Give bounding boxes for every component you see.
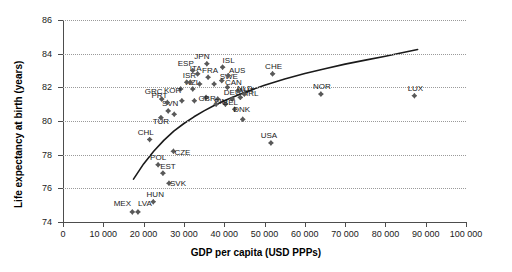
x-tick-label-40000: 40 000 — [210, 230, 238, 239]
data-point-label-grc: GRC — [145, 88, 163, 96]
x-tick-10000 — [103, 223, 104, 227]
x-tick-100000 — [466, 223, 467, 227]
data-point-label-hun: HUN — [147, 191, 164, 199]
data-point-label-nor: NOR — [313, 83, 331, 91]
y-tick-80 — [58, 121, 63, 122]
data-point-label-svk: SVK — [170, 180, 186, 188]
x-tick-label-0: 0 — [60, 230, 65, 239]
x-tick-label-60000: 60 000 — [291, 230, 319, 239]
data-point-label-kor: KOR — [164, 87, 181, 95]
x-tick-90000 — [426, 223, 427, 227]
y-tick-label-80: 80 — [0, 117, 52, 126]
y-tick-82 — [58, 87, 63, 88]
data-point-label-tur: TUR — [153, 118, 169, 126]
x-tick-label-30000: 30 000 — [170, 230, 198, 239]
y-tick-84 — [58, 54, 63, 55]
x-tick-label-90000: 90 000 — [412, 230, 440, 239]
y-tick-label-86: 86 — [0, 16, 52, 25]
data-point-label-est: EST — [160, 163, 176, 171]
x-tick-label-70000: 70 000 — [331, 230, 359, 239]
data-point-label-pol: POL — [150, 154, 166, 162]
data-point-label-mex: MEX — [114, 200, 131, 208]
x-axis-title: GDP per capita (USD PPPs) — [0, 247, 512, 258]
data-point-label-gbr: GBR — [198, 95, 215, 103]
life-expectancy-gdp-scatter-chart: MEXLVAHUNSVKESTPOLCZECHLTURSVNPRTGRCKORN… — [0, 0, 512, 272]
data-point-label-chl: CHL — [138, 129, 154, 137]
y-tick-label-82: 82 — [0, 83, 52, 92]
x-tick-60000 — [305, 223, 306, 227]
x-tick-30000 — [184, 223, 185, 227]
y-tick-label-78: 78 — [0, 151, 52, 160]
data-point-label-isr: ISR — [183, 72, 196, 80]
x-tick-0 — [63, 223, 64, 227]
data-point-label-usa: USA — [261, 132, 277, 140]
x-tick-label-10000: 10 000 — [90, 230, 118, 239]
x-tick-20000 — [144, 223, 145, 227]
gridline-y-86 — [63, 20, 466, 21]
data-point-label-isl: ISL — [223, 57, 235, 65]
data-point-label-cze: CZE — [174, 149, 190, 157]
x-tick-50000 — [265, 223, 266, 227]
x-tick-40000 — [224, 223, 225, 227]
data-point-label-fra: FRA — [202, 67, 218, 75]
x-tick-label-50000: 50 000 — [251, 230, 279, 239]
data-point-label-aus: AUS — [229, 67, 245, 75]
data-point-label-lux: LUX — [408, 85, 424, 93]
y-tick-86 — [58, 20, 63, 21]
data-point-label-jpn: JPN — [194, 53, 209, 61]
data-point-label-che: CHE — [265, 63, 282, 71]
x-tick-70000 — [345, 223, 346, 227]
x-tick-label-20000: 20 000 — [130, 230, 158, 239]
data-point-label-dnk: DNK — [233, 106, 250, 114]
data-point-label-svn: SVN — [162, 100, 178, 108]
x-tick-label-100000: 100 000 — [450, 230, 483, 239]
gridline-y-84 — [63, 54, 466, 55]
y-tick-76 — [58, 188, 63, 189]
gridline-y-78 — [63, 155, 466, 156]
data-point-label-irl: IRL — [246, 90, 258, 98]
x-tick-label-80000: 80 000 — [372, 230, 400, 239]
y-tick-label-74: 74 — [0, 218, 52, 227]
plot-area: MEXLVAHUNSVKESTPOLCZECHLTURSVNPRTGRCKORN… — [63, 20, 466, 222]
y-tick-78 — [58, 155, 63, 156]
x-tick-80000 — [385, 223, 386, 227]
y-tick-label-84: 84 — [0, 50, 52, 59]
gridline-y-80 — [63, 121, 466, 122]
data-point-label-lva: LVA — [138, 200, 152, 208]
data-point-label-esp: ESP — [178, 60, 194, 68]
gridline-y-82 — [63, 87, 466, 88]
gridline-y-76 — [63, 188, 466, 189]
y-tick-label-76: 76 — [0, 184, 52, 193]
